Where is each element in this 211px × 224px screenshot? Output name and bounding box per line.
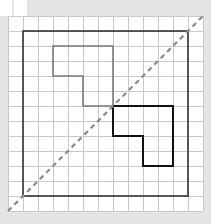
reflection-diagram <box>0 0 211 224</box>
grid-canvas <box>0 0 211 224</box>
